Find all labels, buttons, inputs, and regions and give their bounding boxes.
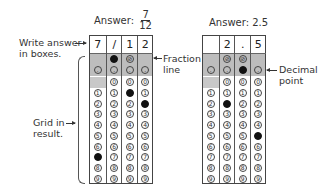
digit-bubble-2[interactable]: 2 <box>110 100 118 108</box>
answer-box[interactable]: 2 <box>138 36 154 53</box>
decimal-point-arrow-icon <box>267 70 277 71</box>
digit-bubble-3[interactable]: 3 <box>110 110 118 118</box>
answer-box[interactable]: / <box>107 36 123 53</box>
digit-bubble-1[interactable]: 1 <box>110 89 118 97</box>
digit-bubble-8[interactable]: 8 <box>207 164 215 172</box>
slash-bubble[interactable]: ⊘ <box>239 55 247 63</box>
digit-bubble-8[interactable]: 8 <box>126 164 134 172</box>
digit-bubble-6[interactable]: 6 <box>239 143 247 151</box>
digit-bubble-9[interactable]: 9 <box>141 175 149 183</box>
answer-box[interactable]: 2 <box>220 36 236 53</box>
digit-bubble-5[interactable]: 5 <box>110 132 118 140</box>
digit-bubble-7[interactable]: 7 <box>239 153 247 161</box>
digit-bubble-3[interactable]: 3 <box>207 110 215 118</box>
digit-bubble-1[interactable]: 1 <box>126 89 134 97</box>
digit-bubble-8[interactable]: 8 <box>141 164 149 172</box>
digit-bubble-4[interactable]: 4 <box>141 121 149 129</box>
decimal-bubble[interactable]: . <box>239 66 247 74</box>
digit-bubble-5[interactable]: 5 <box>254 132 262 140</box>
digit-bubble-0[interactable]: 0 <box>141 78 149 86</box>
digit-bubble-9[interactable]: 9 <box>207 175 215 183</box>
decimal-bubble[interactable]: . <box>254 66 262 74</box>
slash-bubble[interactable]: ⊘ <box>110 55 118 63</box>
digit-bubble-9[interactable]: 9 <box>110 175 118 183</box>
digit-bubble-7[interactable]: 7 <box>126 153 134 161</box>
digit-bubble-8[interactable]: 8 <box>239 164 247 172</box>
digit-bubble-3[interactable]: 3 <box>254 110 262 118</box>
digit-bubble-1[interactable]: 1 <box>223 89 231 97</box>
answer-box[interactable]: 7 <box>90 36 106 53</box>
digit-bubble-5[interactable]: 5 <box>223 132 231 140</box>
digit-bubble-9[interactable]: 9 <box>223 175 231 183</box>
digit-bubble-0[interactable]: 0 <box>239 78 247 86</box>
digit-bubble-5[interactable]: 5 <box>141 132 149 140</box>
digit-bubble-8[interactable]: 8 <box>110 164 118 172</box>
decimal-bubble[interactable]: . <box>94 66 102 74</box>
digit-bubble-6[interactable]: 6 <box>126 143 134 151</box>
digit-bubble-6[interactable]: 6 <box>207 143 215 151</box>
digit-bubble-1[interactable]: 1 <box>207 89 215 97</box>
digit-bubble-5[interactable]: 5 <box>239 132 247 140</box>
digit-bubble-3[interactable]: 3 <box>94 110 102 118</box>
digit-bubble-6[interactable]: 6 <box>94 143 102 151</box>
decimal-bubble[interactable]: . <box>207 66 215 74</box>
digit-bubble-3[interactable]: 3 <box>223 110 231 118</box>
digit-bubble-2[interactable]: 2 <box>254 100 262 108</box>
digit-bubble-9[interactable]: 9 <box>254 175 262 183</box>
digit-bubble-0[interactable]: 0 <box>110 78 118 86</box>
digit-bubble-5[interactable]: 5 <box>207 132 215 140</box>
digit-bubble-1[interactable]: 1 <box>254 89 262 97</box>
answer-box[interactable]: . <box>235 36 251 53</box>
answer-box[interactable]: 5 <box>251 36 267 53</box>
digit-bubble-9[interactable]: 9 <box>126 175 134 183</box>
digit-bubble-0[interactable]: 0 <box>254 78 262 86</box>
digit-bubble-4[interactable]: 4 <box>94 121 102 129</box>
digit-bubble-4[interactable]: 4 <box>223 121 231 129</box>
digit-bubble-6[interactable]: 6 <box>110 143 118 151</box>
digit-bubble-0[interactable]: 0 <box>126 78 134 86</box>
digit-bubble-7[interactable]: 7 <box>94 153 102 161</box>
digit-bubble-2[interactable]: 2 <box>239 100 247 108</box>
answer-box[interactable] <box>203 36 219 53</box>
digit-bubble-7[interactable]: 7 <box>110 153 118 161</box>
slash-bubble[interactable]: ⊘ <box>223 55 231 63</box>
digit-bubble-4[interactable]: 4 <box>239 121 247 129</box>
digit-bubble-3[interactable]: 3 <box>141 110 149 118</box>
digit-bubble-1[interactable]: 1 <box>239 89 247 97</box>
digit-bubble-2[interactable]: 2 <box>141 100 149 108</box>
digit-bubble-9[interactable]: 9 <box>94 175 102 183</box>
digit-bubble-5[interactable]: 5 <box>94 132 102 140</box>
digit-bubble-1[interactable]: 1 <box>141 89 149 97</box>
decimal-bubble[interactable]: . <box>141 66 149 74</box>
decimal-bubble[interactable]: . <box>110 66 118 74</box>
digit-bubble-5[interactable]: 5 <box>126 132 134 140</box>
digit-bubble-2[interactable]: 2 <box>207 100 215 108</box>
digit-bubble-2[interactable]: 2 <box>223 100 231 108</box>
digit-bubble-4[interactable]: 4 <box>110 121 118 129</box>
digit-bubble-8[interactable]: 8 <box>254 164 262 172</box>
answer-box[interactable]: 1 <box>122 36 138 53</box>
digit-bubble-2[interactable]: 2 <box>94 100 102 108</box>
digit-bubble-6[interactable]: 6 <box>254 143 262 151</box>
digit-bubble-2[interactable]: 2 <box>126 100 134 108</box>
decimal-bubble[interactable]: . <box>223 66 231 74</box>
digit-bubble-3[interactable]: 3 <box>239 110 247 118</box>
digit-bubble-4[interactable]: 4 <box>126 121 134 129</box>
digit-bubble-8[interactable]: 8 <box>223 164 231 172</box>
digit-bubble-9[interactable]: 9 <box>239 175 247 183</box>
slash-bubble[interactable]: ⊘ <box>126 55 134 63</box>
digit-bubble-7[interactable]: 7 <box>141 153 149 161</box>
digit-bubble-7[interactable]: 7 <box>254 153 262 161</box>
digit-bubble-4[interactable]: 4 <box>207 121 215 129</box>
digit-bubble-8[interactable]: 8 <box>94 164 102 172</box>
digit-bubble-3[interactable]: 3 <box>126 110 134 118</box>
digit-bubble-1[interactable]: 1 <box>94 89 102 97</box>
decimal-bubble[interactable]: . <box>126 66 134 74</box>
digit-bubble-6[interactable]: 6 <box>223 143 231 151</box>
digit-bubble-7[interactable]: 7 <box>223 153 231 161</box>
digit-bubble-0[interactable]: 0 <box>223 78 231 86</box>
box-divider <box>251 53 267 54</box>
digit-bubble-4[interactable]: 4 <box>254 121 262 129</box>
digit-bubble-7[interactable]: 7 <box>207 153 215 161</box>
digit-bubble-6[interactable]: 6 <box>141 143 149 151</box>
